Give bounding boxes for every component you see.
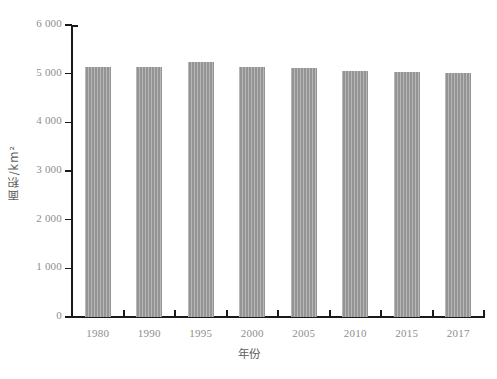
x-axis-tick-label: 2017	[428, 327, 488, 339]
y-axis-tick-label: 2 000	[14, 212, 62, 224]
bar-2015	[394, 72, 420, 317]
y-axis-tick-label: 1 000	[14, 260, 62, 272]
bar-chart: 01 0002 0003 0004 0005 0006 000 19801990…	[0, 0, 497, 379]
y-axis-tick	[65, 268, 72, 270]
y-axis-tick	[65, 219, 72, 221]
y-axis-title: 面积/km²	[6, 145, 22, 201]
y-axis-tick	[65, 316, 72, 318]
x-axis-title: 年份	[0, 345, 497, 361]
y-axis-tick	[65, 122, 72, 124]
y-axis-tick	[65, 73, 72, 75]
y-axis-tick	[65, 24, 72, 26]
bar-1995	[188, 62, 214, 317]
plot-area	[72, 25, 484, 317]
y-axis-tick-label: 6 000	[14, 17, 62, 29]
bar-2005	[291, 68, 317, 317]
bar-2017	[445, 73, 471, 317]
y-axis-tick-label: 5 000	[14, 66, 62, 78]
bar-1980	[85, 67, 111, 317]
y-axis-tick-label: 4 000	[14, 114, 62, 126]
bar-2000	[239, 67, 265, 317]
bar-1990	[136, 67, 162, 317]
y-axis-tick	[65, 170, 72, 172]
bar-2010	[342, 71, 368, 317]
y-axis-tick-label: 0	[14, 309, 62, 321]
